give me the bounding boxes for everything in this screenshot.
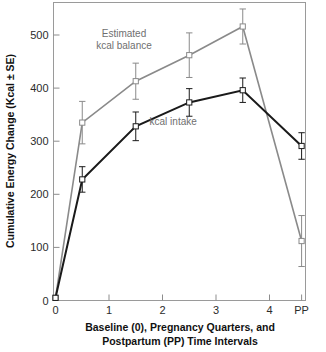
y-tick-label: 400 [30,82,48,94]
x-tick-label: 1 [106,304,112,316]
x-tick-label: 0 [52,304,58,316]
x-axis-title-line2: Postpartum (PP) Time Intervals [102,335,258,347]
x-tick-label: PP [294,304,309,316]
data-point-marker [80,177,85,182]
data-point-marker [299,238,304,243]
y-tick-label: 100 [30,241,48,253]
data-point-marker [133,79,138,84]
data-point-marker [240,88,245,93]
data-point-marker [240,24,245,29]
data-point-marker [133,124,138,129]
plot-frame [54,3,306,301]
series-annotation-1-line1: Estimated [102,28,146,39]
data-point-marker [80,120,85,125]
x-tick-label: 3 [213,304,219,316]
data-point-marker [187,100,192,105]
y-tick-label: 300 [30,135,48,147]
y-tick-label: 500 [30,29,48,41]
y-axis-title: Cumulative Energy Change (Kcal ± SE) [4,54,16,248]
data-point-marker [187,53,192,58]
y-tick-label: 200 [30,188,48,200]
x-tick-label: 4 [266,304,272,316]
data-point-marker [53,295,58,300]
x-axis-title-line1: Baseline (0), Pregnancy Quarters, and [85,321,275,333]
y-tick-label: 0 [42,295,48,307]
series-annotation-2-line1: kcal intake [150,116,198,127]
x-tick-label: 2 [159,304,165,316]
series-annotation-1-line2: kcal balance [96,40,152,51]
line-chart: 0100200300400500 01234PP Estimatedkcal b… [0,0,326,352]
data-point-marker [299,143,304,148]
figure-container: 0100200300400500 01234PP Estimatedkcal b… [0,0,326,352]
